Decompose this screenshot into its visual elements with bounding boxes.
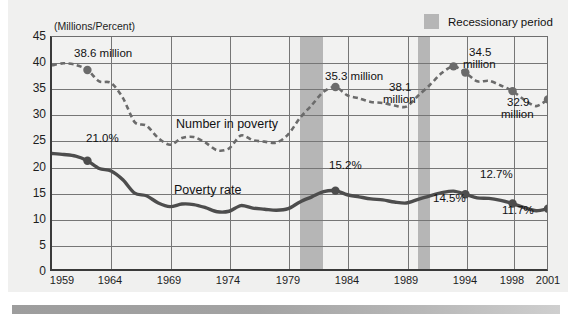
data-point-marker (449, 62, 457, 70)
y-tick-30: 30 (2, 107, 46, 121)
x-tick-1959: 1959 (50, 274, 74, 286)
annotation-32-9-million-unit: million (501, 108, 534, 120)
y-tick-10: 10 (2, 212, 46, 226)
x-tick-2001: 2001 (536, 274, 560, 286)
series-lines (52, 37, 547, 269)
legend-entry-label: Recessionary period (448, 16, 553, 28)
recession-legend-swatch-icon (424, 14, 439, 29)
series-path-number-in-poverty (52, 63, 547, 150)
annotation-32-9: 32.9 (507, 96, 529, 108)
annotation-34-5-million-unit: million (463, 58, 496, 70)
series-label-number-in-poverty: Number in poverty (176, 117, 278, 131)
x-tick-1984: 1984 (335, 274, 359, 286)
data-point-marker (508, 87, 516, 95)
annotation-12-7-percent: 12.7% (480, 168, 513, 180)
panel-right-margin (568, 0, 576, 292)
annotation-14-5-percent: 14.5% (433, 192, 466, 204)
data-point-marker (83, 157, 91, 165)
y-tick-20: 20 (2, 160, 46, 174)
annotation-35-3-million: 35.3 million (325, 70, 383, 82)
x-tick-1969: 1969 (157, 274, 181, 286)
data-point-marker (83, 66, 91, 74)
series-label-poverty-rate: Poverty rate (174, 183, 241, 197)
y-axis-ticks: 0 5 10 15 20 25 30 35 40 45 (0, 36, 46, 271)
plot-inner: Number in poverty Poverty rate 38.6 mill… (52, 37, 547, 269)
data-point-marker (331, 83, 339, 91)
data-point-marker (331, 186, 339, 194)
annotation-38-1: 38.1 (389, 81, 411, 93)
y-axis-unit-label: (Millions/Percent) (54, 20, 135, 32)
series-path-poverty-rate (52, 154, 547, 213)
annotation-21-0-percent: 21.0% (86, 132, 119, 144)
y-tick-40: 40 (2, 55, 46, 69)
annotation-11-7-percent: 11.7% (502, 204, 534, 216)
legend: Recessionary period (424, 14, 553, 29)
y-tick-35: 35 (2, 81, 46, 95)
x-tick-1998: 1998 (500, 274, 524, 286)
poverty-chart-figure: (Millions/Percent) Recessionary period 0… (0, 0, 576, 326)
y-tick-45: 45 (2, 29, 46, 43)
plot-area: Number in poverty Poverty rate 38.6 mill… (50, 36, 548, 271)
annotation-38-6-million: 38.6 million (74, 47, 132, 59)
x-tick-1974: 1974 (216, 274, 240, 286)
y-tick-5: 5 (2, 238, 46, 252)
annotation-34-5: 34.5 (469, 46, 491, 58)
x-tick-1964: 1964 (98, 274, 122, 286)
data-point-marker (544, 204, 547, 212)
annotation-15-2-percent: 15.2% (329, 159, 362, 171)
y-tick-15: 15 (2, 186, 46, 200)
footer-rule (12, 305, 560, 314)
x-tick-1979: 1979 (276, 274, 300, 286)
y-tick-0: 0 (2, 264, 46, 278)
annotation-38-1-million-unit: million (383, 93, 416, 105)
x-tick-1994: 1994 (453, 274, 477, 286)
x-tick-1989: 1989 (394, 274, 418, 286)
y-tick-25: 25 (2, 133, 46, 147)
